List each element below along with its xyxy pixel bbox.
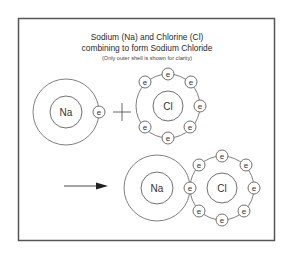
electron: e (184, 121, 196, 133)
svg-text:e: e (198, 102, 203, 111)
electron: e (162, 68, 174, 80)
svg-text:e: e (143, 123, 148, 132)
sodium-symbol: Na (151, 183, 164, 194)
svg-text:e: e (166, 134, 171, 143)
svg-text:e: e (220, 152, 225, 161)
electron: e (139, 76, 151, 88)
svg-text:e: e (188, 184, 193, 193)
chlorine-symbol: Cl (217, 183, 226, 194)
title-line-1: Sodium (Na) and Chlorine (Cl) (91, 32, 204, 42)
svg-text:e: e (220, 216, 225, 225)
svg-text:e: e (188, 123, 193, 132)
electron: e (93, 106, 105, 118)
electron: e (139, 121, 151, 133)
electron: e (184, 182, 196, 194)
svg-text:e: e (242, 207, 247, 216)
electron: e (240, 159, 252, 171)
electron: e (162, 132, 174, 144)
electron: e (248, 182, 260, 194)
chlorine-symbol: Cl (163, 101, 172, 112)
svg-text:e: e (197, 207, 202, 216)
svg-text:e: e (189, 78, 194, 87)
electron: e (216, 150, 228, 162)
electron: e (194, 100, 206, 112)
svg-text:e: e (244, 161, 249, 170)
svg-text:e: e (197, 161, 202, 170)
electron: e (193, 205, 205, 217)
sodium-symbol: Na (60, 107, 73, 118)
sodium-chloride-diagram: Sodium (Na) and Chlorine (Cl) combining … (0, 0, 289, 254)
electron: e (216, 214, 228, 226)
electron: e (193, 159, 205, 171)
svg-text:e: e (166, 70, 171, 79)
chlorine-atom-after: Cl e e e e e e e e (184, 150, 260, 226)
title-line-2: combining to form Sodium Chloride (82, 43, 213, 53)
svg-text:e: e (252, 184, 257, 193)
electron: e (238, 205, 250, 217)
electron: e (185, 76, 197, 88)
svg-text:e: e (143, 78, 148, 87)
svg-text:e: e (97, 108, 102, 117)
subtitle: (Only outer shell is shown for clarity) (102, 55, 192, 61)
